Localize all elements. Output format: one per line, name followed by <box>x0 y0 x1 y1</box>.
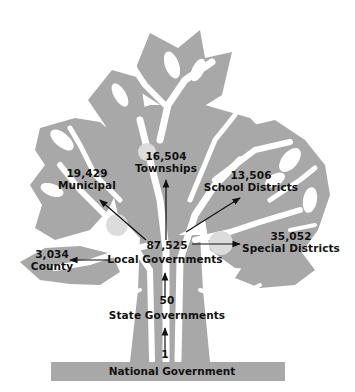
government-tree-diagram: 16,504 Townships 19,429 Municipal 13,506… <box>0 0 355 392</box>
county-count: 3,034 <box>31 248 73 260</box>
municipal-label: Municipal <box>58 179 116 191</box>
municipal-count: 19,429 <box>58 167 116 179</box>
local-governments-label: Local Governments <box>107 253 222 265</box>
school-districts-count: 13,506 <box>204 169 298 181</box>
municipal-node: 19,429 Municipal <box>58 167 116 191</box>
state-governments-count: 50 <box>160 294 175 306</box>
national-government-label: National Government <box>109 365 236 377</box>
county-label: County <box>31 260 73 272</box>
local-governments-count: 87,525 <box>146 239 187 251</box>
school-districts-label: School Districts <box>204 181 298 193</box>
national-government-count: 1 <box>161 348 168 360</box>
special-districts-node: 35,052 Special Districts <box>242 230 340 254</box>
tree-illustration <box>0 0 355 392</box>
county-node: 3,034 County <box>31 248 73 272</box>
townships-count: 16,504 <box>135 150 197 162</box>
townships-node: 16,504 Townships <box>135 150 197 174</box>
school-districts-node: 13,506 School Districts <box>204 169 298 193</box>
special-districts-count: 35,052 <box>242 230 340 242</box>
townships-label: Townships <box>135 162 197 174</box>
special-districts-label: Special Districts <box>242 242 340 254</box>
state-governments-label: State Governments <box>109 309 225 321</box>
